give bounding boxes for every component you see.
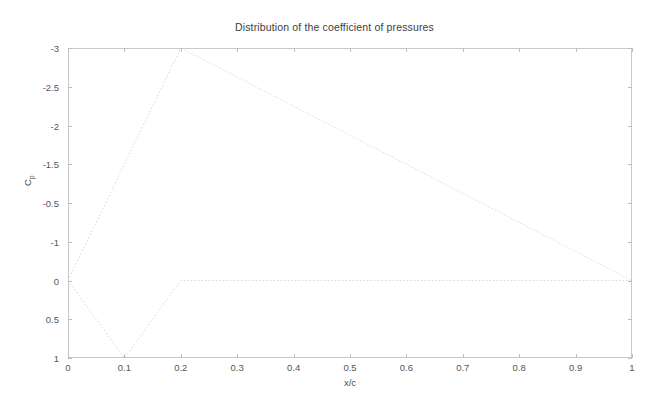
y-tick-mark-right: [628, 319, 632, 320]
x-tick-mark: [294, 354, 295, 358]
y-tick-mark: [68, 242, 72, 243]
y-tick-mark-right: [628, 48, 632, 49]
y-tick-mark-right: [628, 242, 632, 243]
y-tick-mark-right: [628, 203, 632, 204]
y-tick-mark: [68, 164, 72, 165]
x-tick-label: 0.9: [569, 362, 582, 373]
x-tick-mark: [463, 354, 464, 358]
y-axis-label-subscript: p: [28, 175, 35, 179]
series-upper-surface: [68, 48, 632, 281]
x-tick-mark: [124, 354, 125, 358]
x-axis-label: x/c: [68, 377, 632, 388]
x-tick-mark-top: [181, 48, 182, 52]
x-tick-mark: [576, 354, 577, 358]
x-tick-mark-top: [406, 48, 407, 52]
x-tick-mark: [519, 354, 520, 358]
x-tick-mark-top: [124, 48, 125, 52]
y-tick-label: 1: [54, 353, 59, 364]
x-tick-label: 0.3: [231, 362, 244, 373]
y-axis-label: Cp: [22, 175, 35, 186]
y-tick-label: -2: [51, 120, 59, 131]
x-tick-label: 0.8: [513, 362, 526, 373]
x-tick-mark-top: [463, 48, 464, 52]
x-tick-mark-top: [294, 48, 295, 52]
y-tick-label: -1: [51, 236, 59, 247]
x-tick-mark-top: [237, 48, 238, 52]
y-tick-label: -0.5: [43, 198, 59, 209]
y-tick-mark: [68, 126, 72, 127]
y-tick-mark-right: [628, 281, 632, 282]
y-tick-label: 0: [54, 275, 59, 286]
x-tick-mark: [406, 354, 407, 358]
y-tick-mark-right: [628, 164, 632, 165]
x-tick-mark: [350, 354, 351, 358]
y-tick-label: -2.5: [43, 81, 59, 92]
y-tick-mark-right: [628, 126, 632, 127]
plot-area: 00.10.20.30.40.50.60.70.80.91-3-2.5-2-1.…: [68, 48, 632, 358]
x-tick-mark-top: [350, 48, 351, 52]
y-tick-label: 0.5: [46, 314, 59, 325]
y-tick-mark-right: [628, 87, 632, 88]
figure-canvas: Distribution of the coefficient of press…: [0, 0, 669, 402]
y-tick-mark: [68, 281, 72, 282]
x-tick-mark-top: [519, 48, 520, 52]
y-tick-mark: [68, 203, 72, 204]
x-tick-label: 0.2: [174, 362, 187, 373]
x-tick-mark-top: [632, 48, 633, 52]
x-tick-mark-top: [576, 48, 577, 52]
y-tick-mark: [68, 319, 72, 320]
series-lower-surface: [68, 281, 632, 359]
y-axis-label-main: C: [22, 179, 33, 186]
y-tick-mark: [68, 48, 72, 49]
x-tick-label: 0: [65, 362, 70, 373]
x-tick-label: 0.7: [456, 362, 469, 373]
y-tick-mark-right: [628, 358, 632, 359]
x-tick-mark: [237, 354, 238, 358]
x-tick-mark: [632, 354, 633, 358]
x-tick-label: 0.4: [287, 362, 300, 373]
y-tick-mark: [68, 87, 72, 88]
chart-title: Distribution of the coefficient of press…: [0, 21, 669, 33]
plot-series-layer: [68, 48, 632, 358]
y-tick-label: -3: [51, 43, 59, 54]
y-tick-mark: [68, 358, 72, 359]
x-tick-label: 0.5: [343, 362, 356, 373]
x-tick-label: 0.6: [400, 362, 413, 373]
x-tick-mark: [181, 354, 182, 358]
x-tick-label: 0.1: [118, 362, 131, 373]
x-tick-label: 1: [629, 362, 634, 373]
y-tick-label: -1.5: [43, 159, 59, 170]
